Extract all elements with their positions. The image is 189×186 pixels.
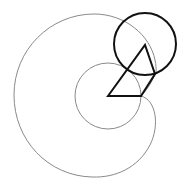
geometric-diagram	[0, 0, 189, 186]
background	[0, 0, 189, 186]
